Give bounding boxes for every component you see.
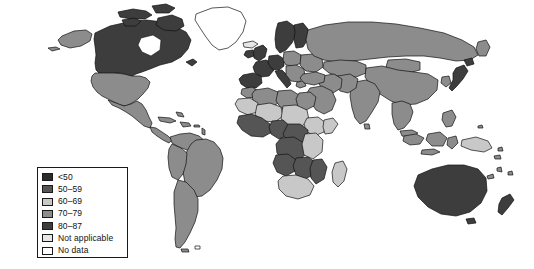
legend-label-50-59: 50–59 <box>58 185 82 194</box>
legend-swatch-50-59 <box>42 185 53 193</box>
legend-item-not-applicable[interactable]: Not applicable <box>42 232 123 244</box>
region-poland-baltics[interactable] <box>283 51 301 66</box>
map-legend: <50 50–59 60–69 70–79 80–87 Not applicab… <box>37 167 128 258</box>
legend-item-no-data[interactable]: No data <box>42 245 123 257</box>
legend-swatch-no-data <box>42 247 53 255</box>
legend-swatch-lt50 <box>42 173 53 181</box>
region-tasmania <box>466 218 476 224</box>
legend-item-60-69[interactable]: 60–69 <box>42 196 123 208</box>
legend-swatch-60-69 <box>42 198 53 206</box>
legend-swatch-80-87 <box>42 222 53 230</box>
region-tierra-del-fuego <box>181 249 189 252</box>
legend-label-no-data: No data <box>58 246 88 255</box>
legend-item-80-87[interactable]: 80–87 <box>42 220 123 232</box>
legend-label-80-87: 80–87 <box>58 222 82 231</box>
region-puerto-rico <box>194 125 200 127</box>
world-choropleth-figure: <50 50–59 60–69 70–79 80–87 Not applicab… <box>0 0 534 269</box>
legend-swatch-70-79 <box>42 210 53 218</box>
region-turkey[interactable] <box>300 72 325 85</box>
legend-label-lt50: <50 <box>58 173 73 182</box>
legend-swatch-not-applicable <box>42 234 53 242</box>
region-falklands <box>195 246 200 249</box>
legend-item-70-79[interactable]: 70–79 <box>42 208 123 220</box>
legend-label-not-applicable: Not applicable <box>58 234 113 243</box>
region-sri-lanka <box>364 124 370 129</box>
region-vanuatu <box>497 167 502 172</box>
region-solomon-islands <box>494 155 501 159</box>
region-pacific-islands <box>498 147 503 151</box>
legend-item-lt50[interactable]: <50 <box>42 171 123 183</box>
legend-item-50-59[interactable]: 50–59 <box>42 183 123 195</box>
legend-label-60-69: 60–69 <box>58 197 82 206</box>
region-fiji <box>508 171 513 175</box>
legend-label-70-79: 70–79 <box>58 209 82 218</box>
